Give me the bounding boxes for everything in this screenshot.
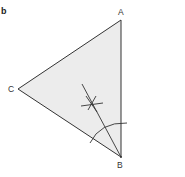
- vertex-b-point: [120, 156, 122, 158]
- vertex-b-label: B: [117, 161, 123, 170]
- triangle-abc: [18, 20, 121, 157]
- angle-bisector-diagram: b A C B: [0, 0, 185, 177]
- vertex-a-label: A: [118, 8, 124, 17]
- vertex-c-label: C: [8, 85, 14, 94]
- triangle-construction: [0, 0, 185, 177]
